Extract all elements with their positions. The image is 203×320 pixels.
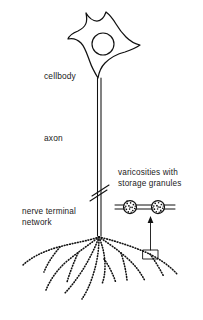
storage-granule — [132, 210, 134, 212]
storage-granule — [153, 205, 155, 207]
storage-granule — [157, 206, 159, 208]
storage-granule — [130, 212, 132, 214]
storage-granule — [134, 208, 136, 210]
storage-granule — [156, 211, 158, 213]
storage-granule — [157, 208, 159, 210]
storage-granule — [154, 208, 156, 210]
storage-granule — [124, 207, 125, 208]
storage-granule — [135, 206, 136, 207]
storage-granule — [126, 208, 128, 210]
storage-granule — [161, 204, 163, 206]
storage-granule — [130, 202, 132, 204]
diagram-canvas: cellbody axon varicosities with storage … — [0, 0, 203, 320]
storage-granule — [126, 200, 127, 201]
label-varicosities-line1: varicosities with — [118, 168, 178, 177]
storage-granule — [126, 203, 128, 205]
storage-granule — [162, 208, 164, 210]
storage-granule — [129, 208, 131, 210]
storage-granule — [133, 204, 135, 206]
neuron-diagram-figure: cellbody axon varicosities with storage … — [0, 0, 203, 320]
label-cellbody: cellbody — [44, 71, 77, 81]
storage-granule — [163, 205, 164, 206]
storage-granule — [131, 206, 133, 208]
storage-granule — [154, 202, 156, 204]
label-axon: axon — [44, 133, 63, 143]
label-nerve-terminal-line2: network — [22, 218, 52, 227]
label-nerve-terminal-line1: nerve terminal — [22, 207, 76, 216]
storage-granule — [156, 205, 158, 207]
storage-granule — [158, 211, 160, 213]
label-varicosities-line2: storage granules — [118, 179, 181, 188]
storage-granule — [128, 205, 130, 207]
storage-granule — [159, 206, 161, 208]
storage-granule — [160, 211, 161, 212]
storage-granule — [129, 206, 131, 208]
storage-granule — [125, 205, 127, 207]
storage-granule — [128, 211, 130, 213]
storage-granule — [158, 202, 160, 204]
storage-granule — [152, 207, 153, 208]
